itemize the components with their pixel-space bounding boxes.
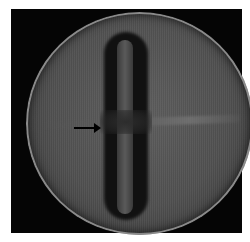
arrow-right-icon [74,127,96,129]
rod-constriction [100,110,152,134]
micrograph-image [0,0,250,242]
